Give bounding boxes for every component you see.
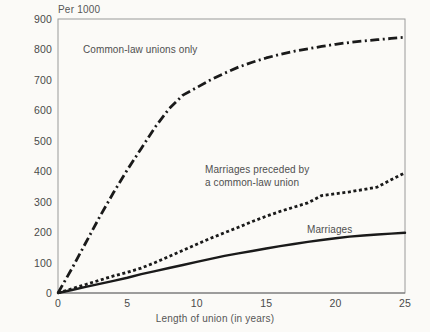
series-label-common-law-unions-only: Common-law unions only xyxy=(83,44,197,57)
series-label-marriages-preceded-by-common-law-union: Marriages preceded by a common-law union xyxy=(205,164,309,189)
series-line-marriages xyxy=(58,233,405,293)
x-axis-title: Length of union (in years) xyxy=(0,313,430,324)
plot-frame xyxy=(58,19,405,293)
chart-container: Per 1000 0100200300400500600700800900 05… xyxy=(0,0,430,332)
plot-frame-rect xyxy=(58,19,405,293)
series-label-marriages: Marriages xyxy=(307,224,352,237)
series-line-marriages-preceded-by-a-common-law-union xyxy=(58,173,405,293)
